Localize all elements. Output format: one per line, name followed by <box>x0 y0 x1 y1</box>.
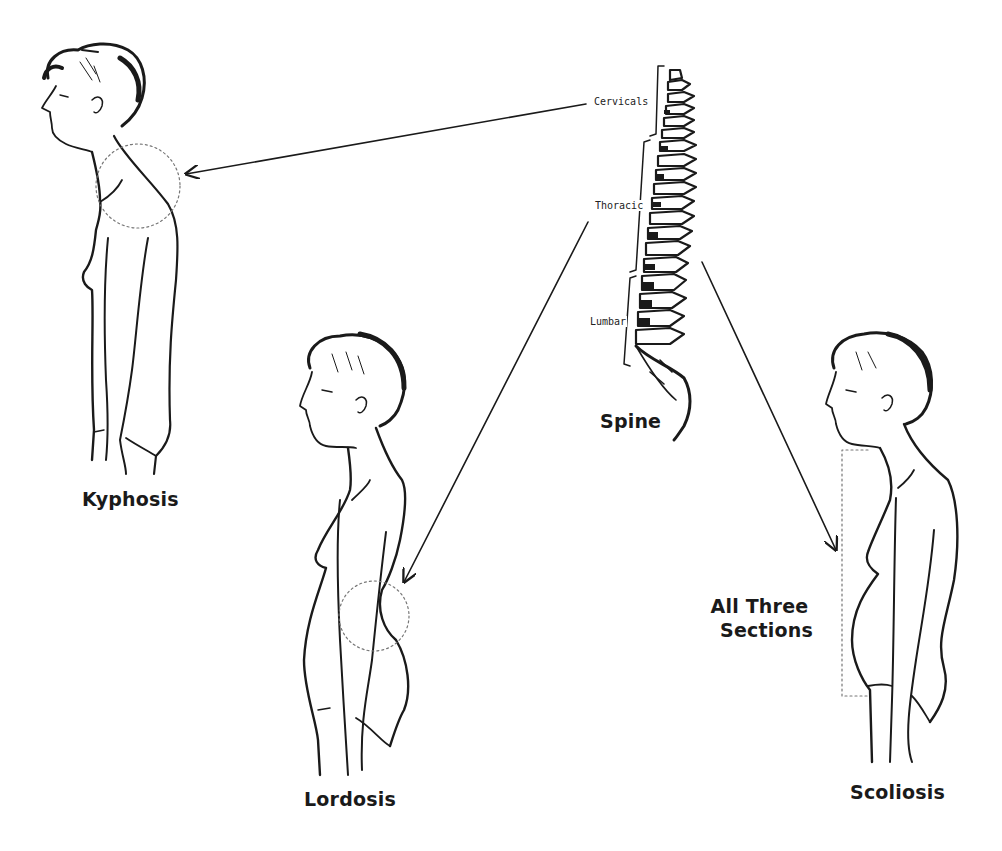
arrow-spine-to-scoliosis <box>702 262 836 550</box>
scoliosis-figure <box>826 333 957 762</box>
scoliosis-label: Scoliosis <box>850 781 945 803</box>
spine-section-lumbar: Lumbar <box>589 316 627 327</box>
all-three-sections-label: All Three Sections <box>706 594 813 642</box>
arrow-cervicals-to-kyphosis <box>186 104 586 174</box>
spine-illustration <box>624 66 696 440</box>
arrow-thoracic-to-lordosis <box>404 222 588 582</box>
all-three-line-2: Sections <box>720 618 813 642</box>
spine-label: Spine <box>600 410 661 432</box>
lordosis-label: Lordosis <box>304 788 396 810</box>
kyphosis-label: Kyphosis <box>82 488 179 510</box>
lordosis-figure <box>300 334 409 775</box>
spine-section-cervicals: Cervicals <box>593 96 649 107</box>
kyphosis-figure <box>42 44 180 474</box>
spine-section-thoracic: Thoracic <box>594 200 644 211</box>
all-three-line-1: All Three <box>706 594 813 618</box>
arrows <box>186 104 836 582</box>
diagram-canvas <box>0 0 1002 851</box>
